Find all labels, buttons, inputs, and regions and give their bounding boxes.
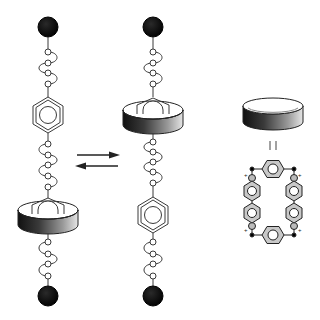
state-ring-lower	[18, 17, 78, 306]
equals-symbol	[270, 141, 276, 150]
equilibrium-arrows	[75, 152, 120, 170]
stopper-top	[38, 17, 58, 37]
benzene-station	[33, 97, 63, 141]
cyclophane-structure	[244, 161, 302, 244]
linker-upper	[144, 49, 162, 97]
diagram-canvas: + + + +	[0, 0, 320, 320]
stopper-bottom	[38, 286, 58, 306]
charge-plus: +	[244, 227, 248, 233]
linker-upper	[39, 49, 57, 97]
state-ring-upper	[123, 17, 183, 306]
stopper-bottom	[143, 286, 163, 306]
linker-lower	[39, 239, 57, 286]
macrocycle-ring	[123, 98, 183, 139]
linker-lower	[144, 239, 162, 286]
charge-plus: +	[298, 227, 302, 233]
charge-plus: +	[244, 172, 248, 178]
charge-plus: +	[298, 172, 302, 178]
stopper-top	[143, 17, 163, 37]
linker-middle	[144, 139, 162, 197]
benzene-station	[138, 197, 168, 239]
linker-middle	[39, 141, 57, 198]
macrocycle-ring-icon	[243, 98, 303, 130]
macrocycle-ring	[18, 198, 78, 239]
macrocycle-legend: + + + +	[243, 98, 303, 244]
